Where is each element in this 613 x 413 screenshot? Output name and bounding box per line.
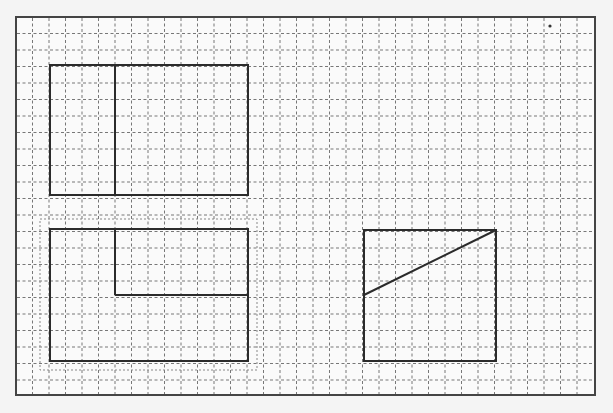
marker-dot bbox=[548, 24, 551, 27]
grid-canvas-svg[interactable] bbox=[0, 0, 613, 413]
canvas-frame bbox=[16, 17, 595, 395]
drawing-canvas[interactable] bbox=[0, 0, 613, 413]
